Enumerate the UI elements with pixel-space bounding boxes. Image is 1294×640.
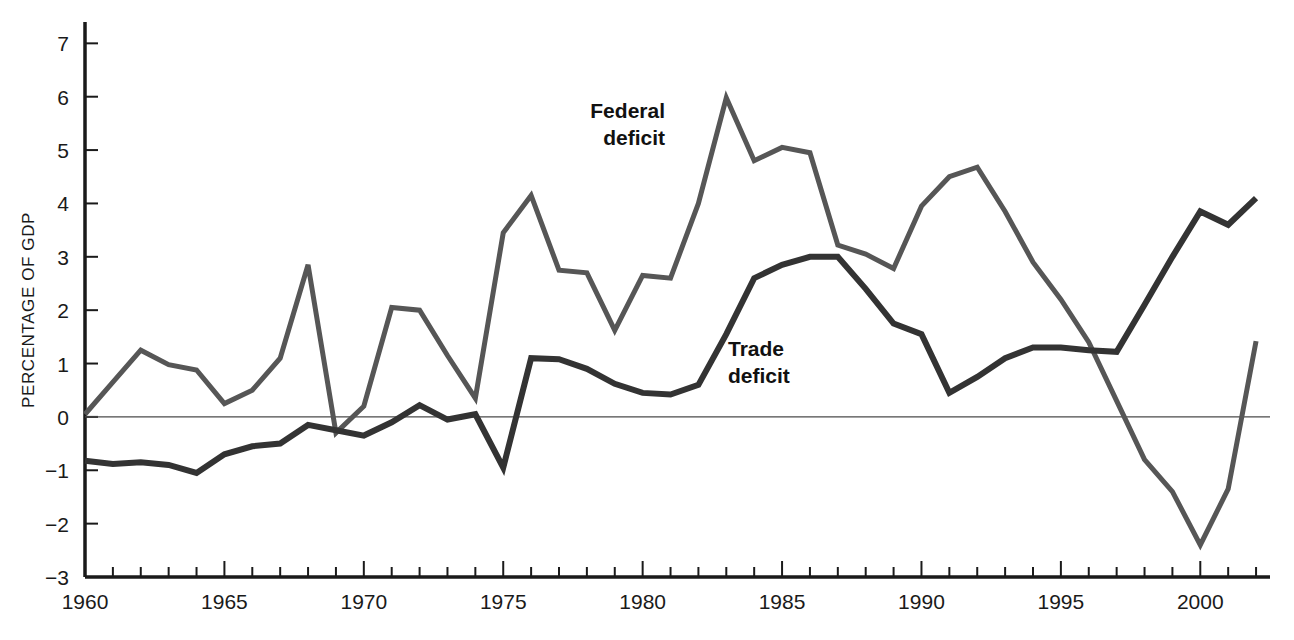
- chart-figure: −3−2−101234567 1960196519701975198019851…: [0, 0, 1294, 640]
- y-tick-label-−1: −1: [45, 459, 69, 482]
- x-tick-label-1985: 1985: [759, 590, 806, 613]
- y-axis-label-text: PERCENTAGE OF GDP: [19, 212, 38, 408]
- y-axis: −3−2−101234567: [45, 22, 98, 589]
- y-tick-label-−3: −3: [45, 566, 69, 589]
- series-line-trade-deficit: [85, 198, 1256, 473]
- line-chart-canvas: −3−2−101234567 1960196519701975198019851…: [0, 0, 1294, 640]
- x-tick-label-1965: 1965: [201, 590, 248, 613]
- series-label-trade-deficit-line1: Trade: [728, 337, 784, 360]
- x-tick-label-1995: 1995: [1038, 590, 1085, 613]
- y-tick-label-2: 2: [57, 299, 69, 322]
- series-label-federal-deficit-line2: deficit: [603, 126, 665, 149]
- series-label-federal-deficit-line1: Federal: [590, 99, 665, 122]
- series-line-federal-deficit: [85, 98, 1256, 545]
- y-tick-label-5: 5: [57, 139, 69, 162]
- y-tick-label-7: 7: [57, 32, 69, 55]
- x-tick-label-2000: 2000: [1177, 590, 1224, 613]
- y-tick-label-3: 3: [57, 246, 69, 269]
- x-tick-label-1980: 1980: [619, 590, 666, 613]
- y-tick-label-0: 0: [57, 406, 69, 429]
- x-tick-label-1970: 1970: [340, 590, 387, 613]
- x-tick-label-1975: 1975: [480, 590, 527, 613]
- y-tick-label-−2: −2: [45, 513, 69, 536]
- data-series-group: [85, 98, 1256, 545]
- y-tick-label-6: 6: [57, 86, 69, 109]
- series-label-trade-deficit-line2: deficit: [728, 364, 790, 387]
- y-axis-title: PERCENTAGE OF GDP: [19, 212, 38, 408]
- y-tick-label-4: 4: [57, 192, 69, 215]
- x-tick-label-1990: 1990: [898, 590, 945, 613]
- y-tick-label-1: 1: [57, 353, 69, 376]
- x-tick-label-1960: 1960: [62, 590, 109, 613]
- series-annotations: FederaldeficitTradedeficit: [590, 99, 790, 387]
- x-axis: 196019651970197519801985199019952000: [62, 561, 1270, 613]
